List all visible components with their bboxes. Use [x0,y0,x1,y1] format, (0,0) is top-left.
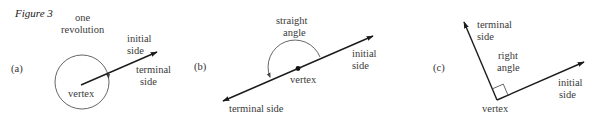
angle-label-line1: straight [276,15,308,26]
revolution-circle [55,55,109,109]
panel-a-one-revolution: (a) one revolution initial side terminal… [11,12,171,109]
vertex-label: vertex [68,88,95,99]
terminal-side-label-line1: terminal [136,64,171,75]
straight-angle-arc [268,40,320,77]
angle-label-line2: angle [497,62,520,73]
angle-label-line2: angle [283,27,306,38]
initial-side-label-line2: side [352,60,369,71]
figure-title: Figure 3 [14,7,53,19]
panel-a-label: (a) [11,63,23,75]
terminal-side-label-line2: side [140,76,157,87]
initial-side-label-line1: initial [127,33,152,44]
figure-3-angles-diagram: Figure 3 (a) one revolution initial side… [0,0,597,122]
angle-label-line1: right [498,50,518,61]
initial-side-label-line2: side [127,45,144,56]
terminal-side-label-line2: side [477,31,494,42]
initial-side-label-line1: initial [558,77,583,88]
panel-b-label: (b) [194,61,207,73]
angle-label-line2: revolution [61,24,105,35]
terminal-side-label-line1: terminal [477,19,512,30]
initial-side-label-line1: initial [352,48,377,59]
terminal-ray [223,69,298,102]
panel-c-label: (c) [433,62,445,74]
initial-side-label-line2: side [559,89,576,100]
panel-b-straight-angle: (b) straight angle initial side vertex t… [194,15,377,114]
angle-label-line1: one [75,12,91,23]
vertex-label: vertex [290,74,317,85]
terminal-side-label: terminal side [229,103,284,114]
panel-c-right-angle: (c) terminal side right angle initial si… [433,19,584,114]
vertex-point [296,66,301,71]
vertex-label: vertex [482,103,509,114]
